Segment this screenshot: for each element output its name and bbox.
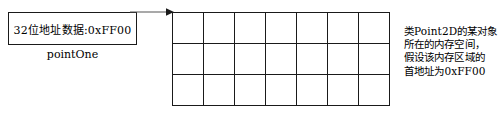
memory-cell [266,75,297,106]
memory-cell [235,75,266,106]
pointer-variable-label: pointOne [8,48,137,61]
memory-cell [204,13,235,44]
pointer-variable-box: 32位地址数据:0xFF00 [8,12,137,45]
memory-cell [204,44,235,75]
memory-cell [297,44,328,75]
memory-cell [328,13,359,44]
memory-cell [235,13,266,44]
memory-cell [328,44,359,75]
memory-cell [297,75,328,106]
memory-grid [172,12,390,106]
annotation-line-3: 假设该内存区域的 [404,51,498,64]
memory-cell [173,75,204,106]
memory-cell [173,44,204,75]
annotation-line-1: 类Point2D的某对象 [404,25,498,38]
memory-cell [235,44,266,75]
annotation-line-4: 首地址为0xFF00 [404,65,498,78]
diagram-canvas: 32位地址数据:0xFF00 pointOne 类Point2D的某对象 所在的… [0,0,498,125]
annotation-line-2: 所在的内存空间， [404,38,498,51]
memory-cell [359,75,390,106]
memory-cell [328,75,359,106]
memory-annotation: 类Point2D的某对象 所在的内存空间， 假设该内存区域的 首地址为0xFF0… [404,25,498,78]
memory-cell [359,44,390,75]
memory-cell [204,75,235,106]
memory-cell [266,44,297,75]
memory-cell [297,13,328,44]
memory-cell [173,13,204,44]
memory-cell [359,13,390,44]
memory-cell [266,13,297,44]
pointer-address-text: 32位地址数据:0xFF00 [9,13,136,44]
